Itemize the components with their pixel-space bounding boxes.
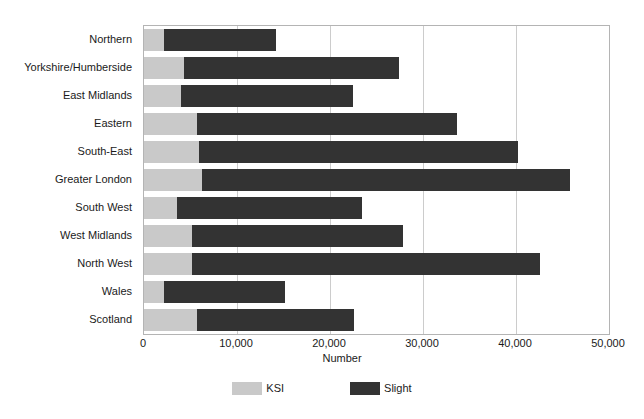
bar-row [144,309,609,331]
bar-row [144,29,609,51]
bar-segment-slight [184,57,399,79]
bar-segment-ksi [144,169,202,191]
legend-swatch-icon [350,382,380,395]
category-label: Wales [102,280,132,302]
bar-segment-ksi [144,29,164,51]
bar-row [144,141,609,163]
category-label: West Midlands [60,224,132,246]
legend-item[interactable]: Slight [350,382,412,395]
bar-segment-slight [197,309,354,331]
x-tick-label: 30,000 [405,336,439,350]
bar-segment-ksi [144,85,181,107]
bar-segment-slight [164,281,286,303]
x-tick-label: 10,000 [219,336,253,350]
bar-segment-ksi [144,225,192,247]
bar-row [144,57,609,79]
bar-segment-ksi [144,197,177,219]
bar-segment-slight [192,225,403,247]
bar-segment-slight [181,85,353,107]
category-label: Northern [89,28,132,50]
bar-row [144,225,609,247]
bar-segment-ksi [144,57,184,79]
plot-area [143,25,610,335]
bar-segment-slight [192,253,540,275]
category-label: East Midlands [63,84,132,106]
category-label: South West [75,196,132,218]
chart-legend: KSISlight [0,382,644,395]
bar-segment-slight [202,169,571,191]
bar-segment-slight [199,141,518,163]
category-label: Greater London [55,168,132,190]
bar-segment-slight [164,29,277,51]
x-tick-label: 50,000 [591,336,625,350]
bar-row [144,253,609,275]
legend-label: Slight [384,382,412,395]
category-label: South-East [78,140,132,162]
bar-row [144,281,609,303]
bar-segment-ksi [144,141,199,163]
bar-segment-slight [177,197,362,219]
x-tick-label: 20,000 [312,336,346,350]
category-label: Scotland [89,308,132,330]
bar-segment-ksi [144,253,192,275]
bar-row [144,197,609,219]
bar-segment-ksi [144,309,197,331]
x-tick-label: 40,000 [498,336,532,350]
legend-item[interactable]: KSI [232,382,284,395]
y-axis-category-labels: NorthernYorkshire/HumbersideEast Midland… [0,25,139,333]
bar-segment-ksi [144,281,164,303]
x-axis-title: Number [0,352,644,364]
category-label: Eastern [94,112,132,134]
bar-segment-ksi [144,113,197,135]
stacked-bar-chart: NorthernYorkshire/HumbersideEast Midland… [0,0,644,419]
category-label: North West [77,252,132,274]
legend-label: KSI [266,382,284,395]
legend-swatch-icon [232,382,262,395]
bar-row [144,169,609,191]
bar-row [144,113,609,135]
x-axis-tick-labels: 010,00020,00030,00040,00050,000 [143,336,609,352]
bar-segment-slight [197,113,457,135]
category-label: Yorkshire/Humberside [24,56,132,78]
bar-row [144,85,609,107]
x-tick-label: 0 [140,336,146,350]
